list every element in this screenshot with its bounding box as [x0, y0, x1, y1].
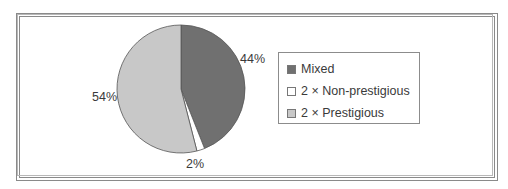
legend-label-prestigious: 2 × Prestigious: [301, 106, 384, 120]
legend-swatch-non-prestigious: [287, 87, 296, 96]
legend-label-non-prestigious: 2 × Non-prestigious: [301, 84, 410, 98]
legend-item-prestigious: 2 × Prestigious: [287, 106, 384, 120]
slice-label-mixed: 44%: [240, 52, 265, 66]
legend-swatch-mixed: [287, 65, 296, 74]
legend-item-mixed: Mixed: [287, 62, 334, 76]
slice-label-prestigious: 54%: [92, 90, 117, 104]
pie-chart: [0, 0, 508, 189]
legend-label-mixed: Mixed: [301, 62, 334, 76]
legend-swatch-prestigious: [287, 109, 296, 118]
slice-label-non-prestigious: 2%: [186, 157, 204, 171]
legend-item-non-prestigious: 2 × Non-prestigious: [287, 84, 410, 98]
legend: Mixed 2 × Non-prestigious 2 × Prestigiou…: [278, 52, 420, 124]
